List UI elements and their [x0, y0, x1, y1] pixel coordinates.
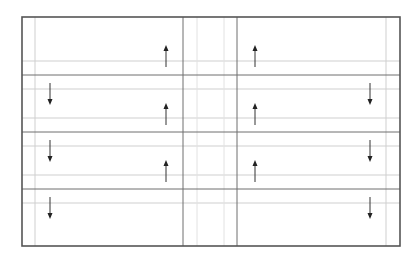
arrow-head [253, 103, 258, 109]
row-dividers [22, 75, 400, 189]
arrow-up-icon [253, 160, 258, 182]
grid-diagram [0, 0, 419, 261]
arrow-head [164, 103, 169, 109]
arrow-down-icon [368, 197, 373, 219]
arrow-down-icon [48, 83, 53, 105]
arrow-head [48, 99, 53, 105]
arrow-head [368, 213, 373, 219]
arrow-head [368, 99, 373, 105]
arrow-head [253, 45, 258, 51]
arrow-up-icon [253, 45, 258, 67]
arrow-up-icon [164, 160, 169, 182]
arrow-down-icon [368, 140, 373, 162]
arrow-up-icon [253, 103, 258, 125]
arrow-head [164, 45, 169, 51]
arrow-head [48, 213, 53, 219]
arrow-down-icon [368, 83, 373, 105]
arrow-down-icon [48, 140, 53, 162]
arrow-head [253, 160, 258, 166]
arrow-head [48, 156, 53, 162]
arrow-head [164, 160, 169, 166]
arrow-head [368, 156, 373, 162]
arrow-down-icon [48, 197, 53, 219]
arrow-up-icon [164, 103, 169, 125]
arrow-up-icon [164, 45, 169, 67]
